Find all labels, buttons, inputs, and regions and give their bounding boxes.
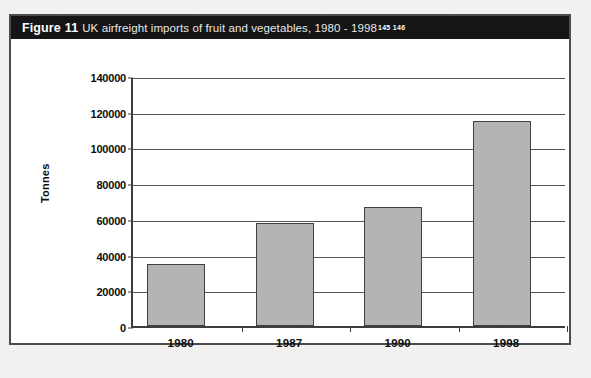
bar-1990	[364, 207, 422, 326]
y-axis-tick-label: 140000	[90, 72, 126, 84]
bar-slot	[242, 78, 351, 326]
x-axis-tick-mark	[567, 326, 568, 332]
bar-1980	[147, 264, 205, 327]
x-axis-tick-label-1990: 1990	[385, 337, 411, 349]
figure-number: 11	[65, 21, 78, 35]
bar-slot	[350, 78, 459, 326]
y-axis-tick-label: 20000	[96, 286, 126, 298]
y-axis-tick-label: 120000	[90, 108, 126, 120]
y-axis-tick-label: 40000	[96, 251, 126, 263]
x-axis-tick-label-1998: 1998	[493, 337, 519, 349]
bar-slot	[459, 78, 568, 326]
y-axis-tick-label: 100000	[90, 143, 126, 155]
bar-1998	[473, 121, 531, 326]
y-axis-title: Tonnes	[39, 164, 51, 204]
y-axis-tick-label: 80000	[96, 179, 126, 191]
plot-area: 020000400006000080000100000120000140000 …	[131, 78, 565, 328]
figure-caption-bar: Figure 11 UK airfreight imports of fruit…	[11, 16, 569, 39]
x-axis-tick-mark	[459, 326, 460, 332]
x-axis-tick-mark	[350, 326, 351, 332]
bar-series	[133, 78, 565, 326]
figure-frame: Figure 11 UK airfreight imports of fruit…	[9, 14, 571, 345]
figure-caption-text: UK airfreight imports of fruit and veget…	[82, 22, 377, 34]
y-axis-tick-mark	[128, 328, 133, 329]
chart-canvas: Tonnes 020000400006000080000100000120000…	[11, 39, 569, 343]
x-axis-tick-mark	[242, 326, 243, 332]
y-axis-tick-label: 0	[120, 322, 126, 334]
y-axis-tick-label: 60000	[96, 215, 126, 227]
figure-label: Figure	[22, 21, 61, 35]
figure-caption-superscripts: 145 146	[378, 24, 405, 31]
x-axis-tick-label-1987: 1987	[276, 337, 302, 349]
bar-slot	[133, 78, 242, 326]
x-axis-tick-label-1980: 1980	[168, 337, 194, 349]
bar-1987	[256, 223, 314, 326]
